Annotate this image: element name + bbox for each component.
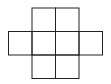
grid-cell <box>32 8 56 32</box>
grid-cell <box>56 55 80 79</box>
grid-cell <box>32 32 56 56</box>
grid-cell <box>32 55 56 79</box>
grid-cell <box>9 32 33 56</box>
grid-net-diagram <box>0 0 111 84</box>
grid-cell <box>56 8 80 32</box>
grid-cell <box>79 32 103 56</box>
grid-cell <box>56 32 80 56</box>
